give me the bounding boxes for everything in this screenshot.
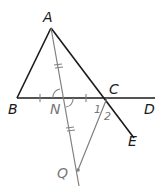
label-angle-1: 1 (94, 103, 101, 116)
label-C: C (109, 81, 119, 97)
label-A: A (42, 9, 53, 25)
angle-arc-ANB (53, 89, 60, 98)
point-Q-dot (76, 168, 80, 172)
label-D: D (144, 101, 155, 117)
double-tick-NQ-1 (66, 127, 74, 128)
double-tick-NQ-2 (67, 130, 75, 131)
segment-CQ (78, 98, 107, 170)
segment-AB (17, 28, 51, 98)
double-tick-AN-1 (54, 64, 62, 65)
label-angle-2: 2 (104, 110, 111, 123)
segment-AE (51, 28, 134, 138)
label-Q: Q (57, 165, 68, 181)
geometry-diagram: A B C D E N Q 1 2 (0, 0, 166, 191)
angle-arc-QNC (66, 98, 73, 107)
label-N: N (50, 101, 61, 117)
label-B: B (8, 101, 18, 117)
label-E: E (128, 133, 137, 149)
double-tick-AN-2 (55, 67, 63, 68)
